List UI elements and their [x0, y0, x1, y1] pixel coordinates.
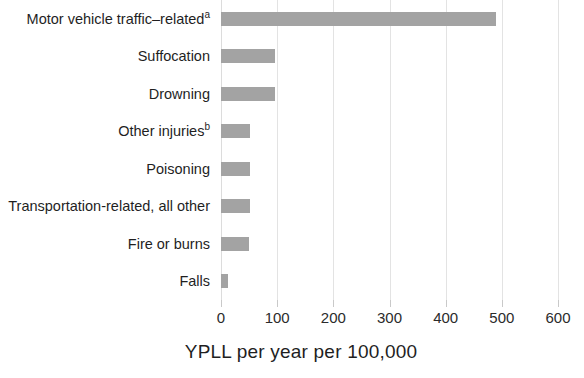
x-axis-title-label: YPLL per year per 100,000 [167, 341, 417, 363]
bar [221, 162, 250, 176]
tick-mark-0 [221, 300, 222, 307]
gridline-500 [502, 0, 503, 300]
category-label-text: Fire or burns [128, 236, 210, 252]
tick-mark-100 [277, 300, 278, 307]
tick-label-0: 0 [217, 309, 225, 327]
gridline-100 [277, 0, 278, 300]
category-label-text: Falls [179, 273, 210, 289]
tick-mark-500 [502, 300, 503, 307]
bar-chart: 0100200300400500600 Motor vehicle traffi… [0, 0, 584, 378]
gridline-200 [333, 0, 334, 300]
category-label-text: Motor vehicle traffic–related [27, 11, 205, 27]
category-label: Other injuriesb [0, 123, 216, 139]
category-label: Drowning [0, 86, 216, 102]
gridline-300 [390, 0, 391, 300]
bar [221, 49, 275, 63]
category-label: Transportation-related, all other [0, 198, 216, 214]
category-label-text: Suffocation [138, 48, 210, 64]
category-label: Poisoning [0, 161, 216, 177]
tick-label-600: 600 [545, 309, 570, 327]
tick-mark-200 [333, 300, 334, 307]
category-label-text: Transportation-related, all other [8, 198, 210, 214]
tick-mark-600 [558, 300, 559, 307]
bar [221, 12, 496, 26]
tick-label-200: 200 [321, 309, 346, 327]
bar [221, 274, 228, 288]
tick-mark-300 [390, 300, 391, 307]
bar [221, 237, 249, 251]
tick-label-100: 100 [265, 309, 290, 327]
category-label: Motor vehicle traffic–relateda [0, 11, 216, 27]
category-label-text: Other injuries [118, 123, 204, 139]
category-label: Fire or burns [0, 236, 216, 252]
tick-label-300: 300 [377, 309, 402, 327]
category-label: Suffocation [0, 48, 216, 64]
category-footnote-marker: a [204, 9, 210, 20]
category-label: Falls [0, 273, 216, 289]
tick-label-500: 500 [489, 309, 514, 327]
category-label-text: Poisoning [146, 161, 210, 177]
gridline-0 [221, 0, 222, 300]
category-label-text: Drowning [149, 86, 210, 102]
gridline-400 [446, 0, 447, 300]
bar [221, 87, 275, 101]
gridline-600 [558, 0, 559, 300]
x-axis-title: YPLL per year per 100,000 [0, 341, 584, 363]
bar [221, 124, 250, 138]
bar [221, 199, 250, 213]
tick-label-400: 400 [433, 309, 458, 327]
tick-mark-400 [446, 300, 447, 307]
category-footnote-marker: b [204, 121, 210, 132]
